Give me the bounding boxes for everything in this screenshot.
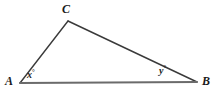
triangle-side-cb [68, 21, 197, 82]
vertex-label-c: C [62, 3, 70, 15]
triangle-figure: A B C x° y° [0, 0, 217, 100]
triangle-svg [0, 0, 217, 100]
vertex-label-a: A [5, 75, 13, 87]
angle-y-degree-symbol: ° [163, 64, 166, 72]
angle-label-x: x° [27, 69, 35, 80]
angle-label-y: y° [159, 65, 166, 76]
triangle-side-ab [20, 82, 197, 83]
vertex-label-b: B [202, 75, 210, 87]
angle-x-degree-symbol: ° [32, 68, 35, 76]
